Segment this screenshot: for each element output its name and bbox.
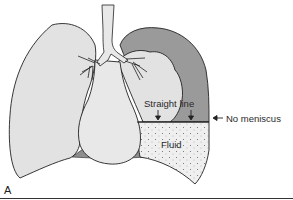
pleural-fluid [137,122,209,184]
no-meniscus-label: No meniscus [226,113,281,124]
no-meniscus-arrow [213,116,223,121]
panel-label: A [4,184,11,196]
trachea [97,5,128,66]
hydropneumothorax-diagram: Straight line No meniscus Fluid A [0,0,293,200]
fluid-label: Fluid [161,139,182,150]
straight-line-label: Straight line [144,98,194,109]
